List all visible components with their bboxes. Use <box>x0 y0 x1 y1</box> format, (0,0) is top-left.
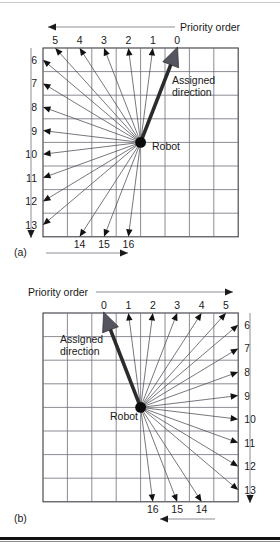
panel-caption: (a) <box>14 246 27 258</box>
top-tick-label: 3 <box>101 34 107 46</box>
bottom-divider-rule-thin <box>0 541 280 542</box>
right-tick-label: 8 <box>244 366 250 378</box>
right-tick-label: 6 <box>244 319 250 331</box>
panel-caption: (b) <box>14 512 27 524</box>
top-tick-label: 5 <box>52 34 58 46</box>
bottom-tick-label: 16 <box>123 238 135 250</box>
top-tick-label: 1 <box>150 34 156 46</box>
row-axis-arrowhead <box>246 495 253 503</box>
bottom-tick-label: 15 <box>98 238 110 250</box>
row-axis-arrowhead <box>27 230 34 238</box>
bottom-tick-label: 16 <box>147 503 159 515</box>
top-divider-rule <box>0 2 280 3</box>
column-axis-arrowhead <box>160 515 168 522</box>
right-tick-label: 7 <box>244 342 250 354</box>
right-tick-label: 9 <box>244 390 250 402</box>
top-tick-label: 0 <box>101 299 107 311</box>
bottom-divider-rule <box>0 537 280 540</box>
left-tick-label: 6 <box>31 54 37 66</box>
priority-order-label: Priority order <box>28 286 89 298</box>
robot-priority-order-figure: RobotAssigneddirection543210678910111213… <box>0 0 280 549</box>
left-tick-label: 7 <box>31 77 37 89</box>
robot-label: Robot <box>152 140 180 152</box>
priority-axis-arrowhead <box>48 23 56 30</box>
bottom-tick-label: 14 <box>196 503 208 515</box>
assigned-direction-label-line2: direction <box>60 345 100 357</box>
column-axis-arrow <box>160 515 215 522</box>
top-tick-label: 5 <box>223 299 229 311</box>
priority-axis-arrowhead <box>225 288 233 295</box>
robot-marker <box>135 137 146 148</box>
priority-order-axis-arrow <box>48 23 175 30</box>
column-axis-arrow <box>46 249 128 256</box>
bottom-tick-label: 15 <box>171 503 183 515</box>
top-tick-label: 2 <box>150 299 156 311</box>
priority-order-label: Priority order <box>180 21 241 33</box>
column-axis-arrowhead <box>120 249 128 256</box>
top-tick-label: 1 <box>125 299 131 311</box>
top-tick-label: 0 <box>174 34 180 46</box>
top-tick-label: 2 <box>125 34 131 46</box>
bottom-tick-label: 14 <box>74 238 86 250</box>
left-tick-label: 8 <box>31 101 37 113</box>
left-tick-label: 11 <box>26 172 37 184</box>
priority-order-axis-arrow <box>96 288 233 295</box>
assigned-direction-label-line2: direction <box>172 86 212 98</box>
robot-label: Robot <box>110 410 138 422</box>
assigned-direction-label-line1: Assigned <box>60 333 103 345</box>
top-tick-label: 3 <box>174 299 180 311</box>
panel-a: RobotAssigneddirection543210678910111213… <box>14 21 241 258</box>
assigned-direction-label-line1: Assigned <box>172 74 215 86</box>
panel-b: RobotAssigneddirection012345678910111213… <box>14 286 256 524</box>
top-tick-label: 4 <box>77 34 83 46</box>
left-tick-label: 9 <box>31 125 37 137</box>
top-tick-label: 4 <box>199 299 205 311</box>
